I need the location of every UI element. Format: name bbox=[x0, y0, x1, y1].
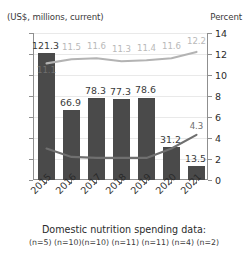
y-axis-tick-right-10: 10 bbox=[215, 71, 227, 81]
tickmark-right-0 bbox=[208, 180, 212, 181]
tickmark-right-4 bbox=[208, 138, 212, 139]
percent-label-2017: 11.6 bbox=[83, 42, 110, 51]
line-series-layer bbox=[33, 33, 208, 180]
tickmark-right-12 bbox=[208, 54, 212, 55]
right-axis-caption: Percent bbox=[210, 12, 242, 22]
percent-lower-label-2021: 4.3 bbox=[183, 122, 210, 131]
percent-line-lower bbox=[47, 135, 197, 158]
percent-label-2015: 11.1 bbox=[33, 66, 60, 75]
chart-footer-sample-sizes: (n=5) (n=10)(n=10) (n=11) (n=11) (n=4) (… bbox=[0, 238, 248, 247]
y-axis-tick-right-6: 6 bbox=[215, 113, 221, 123]
chart-footer-title: Domestic nutrition spending data: bbox=[0, 224, 248, 235]
plot-area: 121.3 66.9 78.3 77.3 78.6 31.2 13.5 11.1… bbox=[33, 33, 208, 180]
y-axis-tick-right-14: 14 bbox=[215, 29, 227, 39]
percent-label-2020: 11.6 bbox=[158, 42, 185, 51]
y-axis-tick-right-8: 8 bbox=[215, 92, 221, 102]
tickmark-right-14 bbox=[208, 33, 212, 34]
chart-figure: (US$, millions, current) Percent 140 120… bbox=[0, 0, 248, 253]
tickmark-right-8 bbox=[208, 96, 212, 97]
percent-label-2021: 12.2 bbox=[183, 37, 210, 46]
y-axis-tick-right-4: 4 bbox=[215, 134, 221, 144]
percent-label-2019: 11.4 bbox=[133, 44, 160, 53]
y-axis-tick-right-2: 2 bbox=[215, 155, 221, 165]
percent-label-2016: 11.5 bbox=[58, 43, 85, 52]
tickmark-right-6 bbox=[208, 117, 212, 118]
left-axis-caption: (US$, millions, current) bbox=[7, 12, 104, 22]
y-axis-tick-right-12: 12 bbox=[215, 50, 227, 60]
tickmark-right-10 bbox=[208, 75, 212, 76]
percent-label-2018: 11.3 bbox=[108, 45, 135, 54]
tickmark-left-0 bbox=[29, 180, 33, 181]
y-axis-tick-right-0: 0 bbox=[215, 176, 221, 186]
